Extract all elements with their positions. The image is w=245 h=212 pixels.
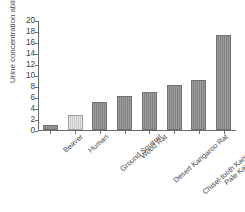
bar [216, 35, 231, 130]
bar [142, 92, 157, 130]
x-axis-category-label: Human [87, 133, 110, 155]
y-axis-tick-label: 12 [19, 61, 35, 69]
y-axis-tick-label: 18 [19, 28, 35, 36]
y-axis-tick-mark [35, 65, 38, 66]
x-axis-line [38, 130, 236, 131]
y-axis-tick-label: 6 [19, 94, 35, 102]
bar [117, 96, 132, 130]
y-axis-tick-label: 16 [19, 39, 35, 47]
bar [92, 102, 107, 130]
y-axis-tick-mark [35, 87, 38, 88]
bar [43, 125, 58, 131]
y-axis-tick-mark [35, 76, 38, 77]
y-axis-tick-mark [35, 21, 38, 22]
y-axis-tick-label: 8 [19, 83, 35, 91]
y-axis-tick-label: 2 [19, 116, 35, 124]
y-axis-tick-mark [35, 120, 38, 121]
y-axis-tick-label: 20 [19, 17, 35, 25]
y-axis-tick-label: 0 [19, 127, 35, 135]
y-axis-tick-mark [35, 43, 38, 44]
y-axis-tick-label: 14 [19, 50, 35, 58]
y-axis-tick-mark [35, 98, 38, 99]
bar [167, 85, 182, 130]
y-axis-tick-labels: 20181614121086420 [19, 16, 35, 131]
x-axis-category-label: Beaver [62, 133, 85, 154]
bar-series [38, 21, 236, 130]
plot-area [38, 21, 236, 131]
bar-chart-figure: Urine concentration ability (relative) 2… [0, 0, 245, 212]
y-axis-tick-mark [35, 109, 38, 110]
y-axis-tick-label: 4 [19, 105, 35, 113]
bar [68, 115, 83, 130]
y-axis-tick-mark [35, 131, 38, 132]
y-axis-tick-label: 10 [19, 72, 35, 80]
y-axis-tick-mark [35, 32, 38, 33]
x-axis-category-labels: BeaverHumanGround SquirrelWood RatDesert… [38, 133, 243, 212]
y-axis-tick-mark [35, 54, 38, 55]
bar [191, 80, 206, 130]
